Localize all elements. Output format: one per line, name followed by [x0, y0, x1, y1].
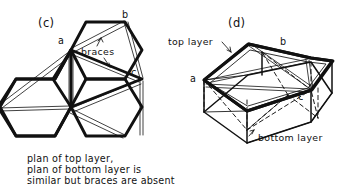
- top-layer-annotation-label: top layer: [168, 36, 213, 47]
- brace-line: [73, 84, 141, 112]
- caption-line-3: similar but braces are absent: [27, 175, 175, 186]
- caption-line-2: plan of bottom layer is: [27, 164, 141, 175]
- brace-line: [70, 113, 123, 138]
- brace-line: [206, 84, 310, 89]
- panel-c-vertex-c: c: [131, 67, 136, 78]
- facet-line: [204, 111, 247, 112]
- braces-annotation-label: braces: [81, 46, 114, 57]
- brace-line: [2, 55, 72, 108]
- dashed-edge: [262, 52, 288, 95]
- panel-d-vertex-b: b: [280, 36, 286, 47]
- panel-d-vertex-c: c: [298, 91, 303, 102]
- brace-line: [0, 106, 70, 108]
- brace-line: [0, 51, 70, 105]
- panel-c-vertex-b: b: [122, 9, 128, 20]
- bottom-layer-leader-arrow: [249, 130, 254, 136]
- panel-c-group: (c) a b c braces plan of top layer, plan…: [0, 9, 175, 186]
- panel-d-braces-group: [206, 44, 313, 92]
- panel-d-label: (d): [228, 16, 245, 30]
- panel-d-group: (d) a b c top layer bottom layer: [168, 16, 333, 143]
- panel-c-label: (c): [38, 16, 55, 30]
- panel-d-vertex-a: a: [190, 73, 196, 84]
- caption-line-1: plan of top layer,: [27, 153, 113, 164]
- panel-c-vertex-a: a: [58, 35, 64, 46]
- hexagon-left-outline: [0, 50, 71, 136]
- bottom-layer-annotation-label: bottom layer: [258, 132, 323, 143]
- geometry-figure: (c) a b c braces plan of top layer, plan…: [0, 0, 345, 192]
- hexagon-left: [0, 50, 71, 136]
- brace-line: [0, 109, 70, 111]
- figure-container: (c) a b c braces plan of top layer, plan…: [0, 0, 345, 192]
- facet-line: [311, 93, 332, 122]
- top-layer-leader-arrow: [222, 42, 231, 52]
